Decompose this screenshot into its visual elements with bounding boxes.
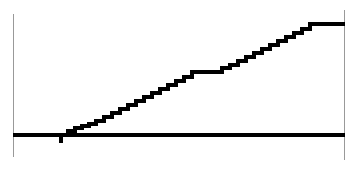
plot-canvas [0,0,355,169]
step-chart-figure [0,0,355,169]
